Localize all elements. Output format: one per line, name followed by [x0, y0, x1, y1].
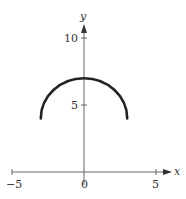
y-tick-label-10: 10 — [64, 32, 78, 45]
x-axis-arrow-icon — [163, 169, 172, 175]
chart: −5 0 5 5 10 x y — [0, 0, 186, 199]
x-axis-label: x — [174, 165, 181, 178]
x-tick-label-0: 0 — [81, 178, 88, 191]
x-tick-label-neg5: −5 — [6, 178, 22, 191]
y-axis-label: y — [79, 10, 87, 23]
y-axis-arrow-icon — [81, 24, 87, 33]
y-tick-label-5: 5 — [71, 99, 78, 112]
x-tick-label-5: 5 — [152, 178, 159, 191]
